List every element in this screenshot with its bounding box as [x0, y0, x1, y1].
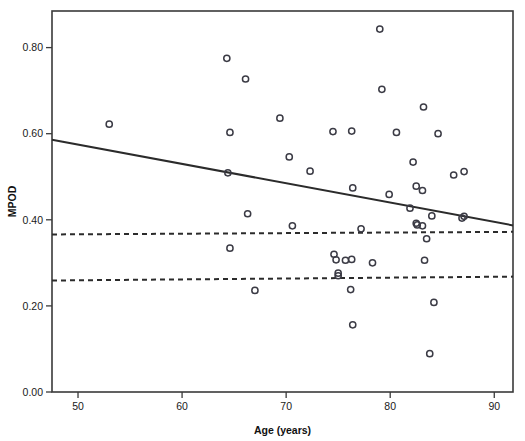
data-point — [386, 191, 392, 197]
data-point — [227, 129, 233, 135]
upper-reference-line — [52, 232, 513, 235]
data-point — [431, 299, 437, 305]
data-point — [333, 257, 339, 263]
plot-area: 0.000.200.400.600.805060708090Age (years… — [6, 11, 513, 436]
data-point — [349, 128, 355, 134]
data-point — [419, 187, 425, 193]
y-axis-tick-label: 0.60 — [23, 127, 44, 139]
plot-frame — [52, 11, 513, 392]
x-axis-tick-label: 50 — [72, 400, 84, 412]
y-axis-tick-label: 0.00 — [23, 386, 44, 398]
lower-reference-line — [52, 277, 513, 281]
y-axis-tick-label: 0.40 — [23, 214, 44, 226]
data-point — [427, 351, 433, 357]
data-point — [286, 154, 292, 160]
data-point — [461, 168, 467, 174]
y-axis-tick-label: 0.20 — [23, 300, 44, 312]
data-point — [227, 245, 233, 251]
data-point — [420, 104, 426, 110]
x-axis-title: Age (years) — [254, 424, 311, 436]
data-point — [245, 211, 251, 217]
data-point — [435, 131, 441, 137]
data-point — [358, 226, 364, 232]
x-axis-tick-label: 80 — [384, 400, 396, 412]
data-point — [429, 213, 435, 219]
data-point — [106, 121, 112, 127]
data-point — [277, 115, 283, 121]
data-point — [307, 168, 313, 174]
x-axis-tick-label: 60 — [176, 400, 188, 412]
y-axis-tick-label: 0.80 — [23, 41, 44, 53]
regression-line — [52, 140, 513, 226]
data-point — [377, 26, 383, 32]
data-point — [421, 257, 427, 263]
data-point — [224, 55, 230, 61]
data-point — [410, 159, 416, 165]
data-point — [289, 223, 295, 229]
data-point — [348, 286, 354, 292]
data-point — [242, 76, 248, 82]
data-point — [379, 86, 385, 92]
data-point — [369, 260, 375, 266]
data-point — [424, 236, 430, 242]
x-axis-tick-label: 90 — [488, 400, 500, 412]
data-point — [342, 257, 348, 263]
scatter-plot-figure: 0.000.200.400.600.805060708090Age (years… — [0, 0, 525, 441]
data-point — [350, 185, 356, 191]
data-point — [413, 183, 419, 189]
data-point — [349, 256, 355, 262]
data-point — [451, 172, 457, 178]
data-point — [330, 128, 336, 134]
data-point — [393, 129, 399, 135]
x-axis-tick-label: 70 — [280, 400, 292, 412]
data-point — [252, 287, 258, 293]
y-axis-title: MPOD — [6, 185, 18, 217]
data-point — [350, 322, 356, 328]
